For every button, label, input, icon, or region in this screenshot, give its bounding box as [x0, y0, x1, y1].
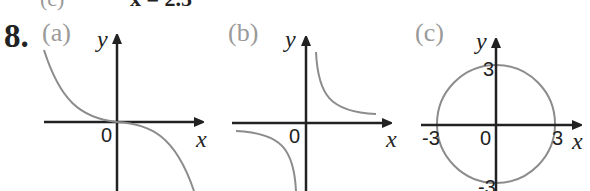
y-axis-label: y: [97, 26, 108, 53]
origin-label: 0: [480, 127, 491, 150]
panel-a-graph: [44, 42, 196, 191]
x-axis-label: x: [196, 126, 207, 153]
y-tick-3: 3: [483, 58, 494, 81]
x-axis-label: x: [386, 126, 397, 153]
panel-b-label: (b): [228, 18, 258, 48]
panel-c-graph: [421, 46, 574, 191]
hyperbola-branch-q1: [316, 52, 376, 114]
x-tick-neg3: -3: [422, 127, 440, 150]
x-axis-label: x: [572, 128, 583, 155]
hyperbola-branch-q3: [236, 131, 296, 191]
y-axis-label: y: [285, 26, 296, 53]
panel-a-label: (a): [42, 18, 71, 48]
origin-label: 0: [101, 124, 112, 147]
y-axis-label: y: [476, 28, 487, 55]
cubic-curve: [44, 50, 194, 191]
y-tick-neg3: -3: [478, 176, 496, 191]
origin-label: 0: [289, 125, 300, 148]
panel-b-graph: [232, 44, 384, 191]
panel-c-label: (c): [415, 18, 444, 48]
x-tick-3: 3: [552, 127, 563, 150]
